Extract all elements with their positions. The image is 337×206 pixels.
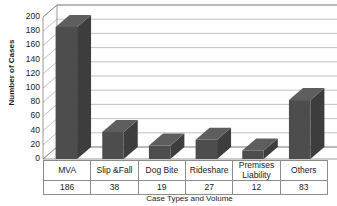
x-axis-title: Case Types and Volume bbox=[42, 194, 337, 204]
value-cell: 12 bbox=[233, 181, 280, 195]
bar-chart: 200180160140120100806040200 Number of Ca… bbox=[0, 0, 337, 206]
category-cell: Slip &Fall bbox=[91, 161, 138, 181]
y-axis-tick-label: 100 bbox=[14, 83, 40, 92]
category-cell: Others bbox=[280, 161, 327, 181]
table-row-categories: MVASlip &FallDog BiteRidesharePremises L… bbox=[44, 161, 328, 181]
category-label: Premises Liability bbox=[233, 161, 279, 180]
y-axis-tick-label: 180 bbox=[14, 26, 40, 35]
value-cell: 186 bbox=[44, 181, 91, 195]
bar-6 bbox=[289, 88, 324, 159]
category-cell: Premises Liability bbox=[233, 161, 280, 181]
category-label: Dog Bite bbox=[139, 166, 185, 176]
y-axis-tick-label: 200 bbox=[14, 12, 40, 21]
y-axis-tick-label: 20 bbox=[14, 140, 40, 149]
table-row-values: 1863819271283 bbox=[44, 181, 328, 195]
y-axis-tick-label: 40 bbox=[14, 126, 40, 135]
category-label: Rideshare bbox=[186, 166, 232, 176]
category-cell: Rideshare bbox=[185, 161, 232, 181]
category-label: Slip &Fall bbox=[91, 166, 137, 176]
y-axis-ticks: 200180160140120100806040200 bbox=[14, 0, 40, 206]
category-cell: MVA bbox=[44, 161, 91, 181]
value-cell: 19 bbox=[138, 181, 185, 195]
category-label: Others bbox=[281, 166, 327, 176]
value-cell: 38 bbox=[91, 181, 138, 195]
y-axis-tick-label: 140 bbox=[14, 55, 40, 64]
y-axis-tick-label: 120 bbox=[14, 69, 40, 78]
category-cell: Dog Bite bbox=[138, 161, 185, 181]
y-axis-tick-label: 0 bbox=[14, 154, 40, 163]
category-label: MVA bbox=[44, 166, 90, 176]
bar-1 bbox=[56, 15, 91, 159]
y-axis-tick-label: 60 bbox=[14, 111, 40, 120]
y-axis-title: Number of Cases bbox=[7, 37, 16, 109]
y-axis-tick-label: 160 bbox=[14, 40, 40, 49]
value-cell: 83 bbox=[280, 181, 327, 195]
y-axis-tick-label: 80 bbox=[14, 97, 40, 106]
data-table: MVASlip &FallDog BiteRidesharePremises L… bbox=[43, 160, 328, 195]
value-cell: 27 bbox=[185, 181, 232, 195]
